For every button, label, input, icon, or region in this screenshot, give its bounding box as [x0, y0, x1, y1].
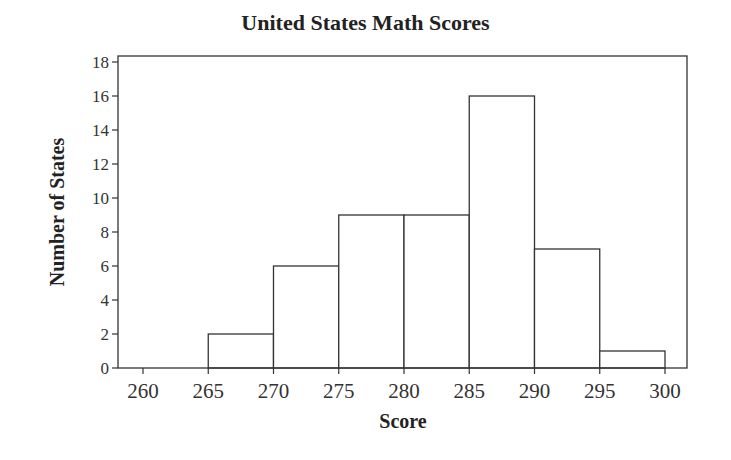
x-tick-label: 270: [258, 379, 290, 403]
histogram-bar: [535, 249, 600, 368]
y-tick-label: 0: [101, 359, 110, 378]
x-tick-label: 260: [127, 379, 159, 403]
y-tick-label: 2: [101, 325, 110, 344]
y-axis-ticks: 024681012141618: [92, 53, 118, 378]
x-tick-label: 280: [388, 379, 420, 403]
x-tick-label: 290: [519, 379, 551, 403]
histogram-bar: [600, 351, 665, 368]
y-tick-label: 18: [92, 53, 109, 72]
y-tick-label: 16: [92, 87, 109, 106]
y-tick-label: 6: [101, 257, 110, 276]
x-axis-ticks: 260265270275280285290295300: [127, 368, 681, 403]
x-tick-label: 275: [323, 379, 355, 403]
x-tick-label: 265: [193, 379, 225, 403]
y-tick-label: 14: [92, 121, 110, 140]
histogram-bar: [208, 334, 273, 368]
x-tick-label: 300: [649, 379, 681, 403]
y-tick-label: 4: [101, 291, 110, 310]
histogram-bar: [274, 266, 339, 368]
x-tick-label: 295: [584, 379, 616, 403]
histogram-bar: [404, 215, 469, 368]
x-tick-label: 285: [454, 379, 486, 403]
histogram-bar: [339, 215, 404, 368]
y-tick-label: 10: [92, 189, 109, 208]
histogram-plot: 024681012141618 260265270275280285290295…: [0, 0, 731, 460]
histogram-bars: [208, 96, 665, 368]
y-tick-label: 8: [101, 223, 110, 242]
histogram-bar: [469, 96, 534, 368]
y-tick-label: 12: [92, 155, 109, 174]
